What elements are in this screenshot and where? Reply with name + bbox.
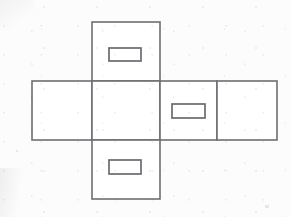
net-slot-top xyxy=(109,48,141,61)
net-face-left xyxy=(32,81,92,140)
cube-net-drawing xyxy=(0,0,290,217)
net-slot-middle xyxy=(172,104,205,118)
cube-net-diagram xyxy=(0,0,290,217)
net-face-center xyxy=(92,81,160,140)
net-face-right-outer xyxy=(217,81,277,140)
net-slot-bottom xyxy=(109,160,141,174)
